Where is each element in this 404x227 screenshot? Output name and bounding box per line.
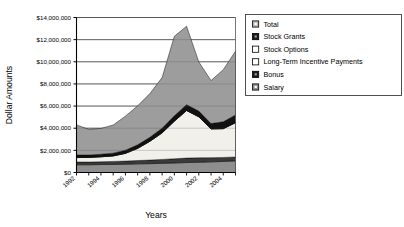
y-tick-label: $4,000,000: [40, 124, 72, 131]
y-tick-label: $10,000,000: [37, 58, 72, 65]
y-tick-label: $2,000,000: [40, 147, 72, 154]
y-axis: $0$2,000,000$4,000,000$6,000,000$8,000,0…: [37, 14, 77, 176]
x-tick-label: 2000: [159, 174, 174, 189]
legend-label: Long-Term Incentive Payments: [264, 57, 363, 66]
x-tick-label: 1992: [61, 174, 76, 189]
x-tick-label: 1994: [86, 174, 101, 189]
chart-figure: $0$2,000,000$4,000,000$6,000,000$8,000,0…: [0, 0, 404, 227]
y-tick-label: $8,000,000: [40, 80, 72, 87]
x-tick-label: 2002: [183, 174, 198, 189]
legend-label: Bonus: [264, 70, 285, 79]
x-tick-label: 1996: [110, 174, 125, 189]
legend-swatch: [253, 46, 259, 52]
legend-item-salary[interactable]: Salary: [253, 83, 285, 92]
legend-item-total[interactable]: Total: [253, 20, 280, 29]
x-tick-label: 1998: [134, 174, 149, 189]
legend-swatch-inner: [255, 86, 257, 88]
legend-label: Stock Options: [264, 45, 309, 54]
legend-item-long-term-incentive-payments[interactable]: Long-Term Incentive Payments: [253, 57, 363, 66]
x-axis-title: Years: [145, 210, 167, 220]
legend-item-bonus[interactable]: Bonus: [253, 70, 285, 79]
y-tick-label: $6,000,000: [40, 102, 72, 109]
compensation-stacked-area-chart: $0$2,000,000$4,000,000$6,000,000$8,000,0…: [0, 0, 404, 227]
y-axis-title: Dollar Amounts: [4, 66, 14, 124]
y-tick-label: $14,000,000: [37, 14, 72, 21]
y-tick-label: $12,000,000: [37, 36, 72, 43]
x-axis: 1992199419961998200020022004: [61, 173, 235, 189]
x-tick-label: 2004: [208, 174, 223, 189]
legend-label: Total: [264, 20, 280, 29]
legend-swatch-inner: [255, 35, 257, 37]
legend-swatch-inner: [255, 73, 257, 75]
legend-label: Salary: [264, 83, 285, 92]
legend-swatch-inner: [255, 23, 257, 25]
legend-label: Stock Grants: [264, 32, 306, 41]
legend: TotalStock GrantsStock OptionsLong-Term …: [246, 15, 402, 96]
legend-swatch: [253, 59, 259, 65]
